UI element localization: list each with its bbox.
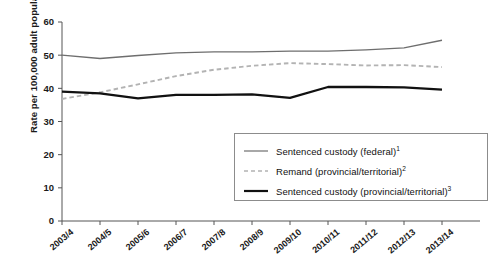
chart-legend: Sentenced custody (federal)1 Remand (pro…: [234, 133, 488, 201]
svg-text:2003/4: 2003/4: [48, 227, 76, 252]
svg-text:30: 30: [43, 116, 54, 127]
y-axis-ticks: [58, 22, 62, 221]
legend-item-remand: Remand (provincial/territorial)2: [243, 161, 481, 181]
legend-label-federal: Sentenced custody (federal)1: [276, 146, 400, 157]
svg-text:40: 40: [43, 83, 54, 94]
svg-text:2007/8: 2007/8: [200, 227, 228, 252]
svg-text:2013/14: 2013/14: [424, 227, 455, 256]
series-lines: [62, 40, 442, 99]
legend-item-federal: Sentenced custody (federal)1: [243, 141, 481, 161]
svg-text:10: 10: [43, 182, 54, 193]
line-dashed-gray-icon: [243, 165, 269, 177]
svg-text:2006/7: 2006/7: [162, 227, 190, 252]
legend-item-provincial: Sentenced custody (provincial/territoria…: [243, 181, 481, 201]
chart-container: Rate per 100,000 adult population 2003/4…: [0, 0, 495, 271]
svg-text:2012/13: 2012/13: [386, 227, 417, 256]
svg-text:2011/12: 2011/12: [348, 227, 379, 255]
svg-text:0: 0: [49, 215, 54, 226]
svg-text:2004/5: 2004/5: [86, 227, 114, 252]
x-axis-tick-labels: 2003/42004/52005/62006/72007/82008/92009…: [48, 227, 456, 256]
svg-text:2009/10: 2009/10: [272, 227, 303, 256]
svg-text:50: 50: [43, 50, 54, 61]
x-axis-ticks: [62, 221, 442, 225]
svg-text:2010/11: 2010/11: [310, 227, 341, 255]
line-solid-thin-gray-icon: [243, 145, 269, 157]
y-axis-tick-labels: 0102030405060: [43, 16, 54, 226]
svg-text:20: 20: [43, 149, 54, 160]
legend-label-remand: Remand (provincial/territorial)2: [276, 166, 406, 177]
svg-text:2008/9: 2008/9: [238, 227, 266, 252]
svg-text:60: 60: [43, 16, 54, 27]
svg-text:2005/6: 2005/6: [124, 227, 152, 252]
line-solid-thick-black-icon: [243, 185, 269, 197]
legend-label-provincial: Sentenced custody (provincial/territoria…: [276, 186, 451, 197]
